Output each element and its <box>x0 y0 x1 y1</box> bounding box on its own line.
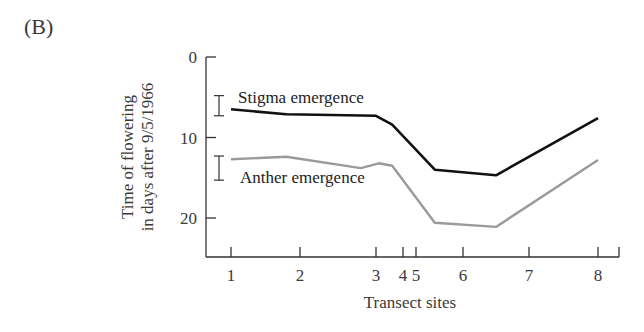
stigma-error-bar <box>214 96 224 116</box>
stigma-label: Stigma emergence <box>238 88 364 107</box>
x-tick-label: 2 <box>296 266 305 285</box>
anther-label: Anther emergence <box>240 168 365 187</box>
x-tick-label: 6 <box>459 266 468 285</box>
x-tick-label: 1 <box>227 266 236 285</box>
y-tick-label: 10 <box>180 129 197 148</box>
x-axis-title: Transect sites <box>364 293 456 312</box>
y-axis-title: Time of floweringin days after 9/5/1966 <box>118 83 157 232</box>
series-lines <box>214 96 598 227</box>
line-chart: 0102012345678Transect sitesTime of flowe… <box>0 0 644 332</box>
x-tick-label: 7 <box>525 266 534 285</box>
series-labels: Stigma emergenceAnther emergence <box>238 88 365 187</box>
y-tick-label: 20 <box>180 209 197 228</box>
y-tick-label: 0 <box>189 48 198 67</box>
x-tick-label: 3 <box>372 266 381 285</box>
x-tick-label: 4 <box>399 266 408 285</box>
anther-error-bar <box>214 156 224 180</box>
x-tick-label: 8 <box>594 266 603 285</box>
stigma-line <box>231 109 598 175</box>
axes: 0102012345678Transect sitesTime of flowe… <box>118 48 619 312</box>
x-tick-label: 5 <box>412 266 421 285</box>
